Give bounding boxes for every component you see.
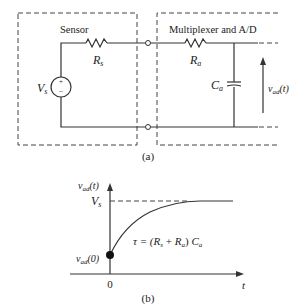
capacitor-plate-bottom bbox=[227, 85, 241, 86]
origin-label: 0 bbox=[107, 278, 113, 290]
sensor-label: Sensor bbox=[60, 24, 89, 35]
caption-b: (b) bbox=[142, 292, 155, 305]
ca-label: Ca bbox=[211, 78, 223, 93]
terminal-top bbox=[146, 41, 151, 46]
time-constant-label: τ = (Rs + Ra) Ca bbox=[133, 235, 203, 249]
wire-top-left bbox=[61, 43, 86, 77]
y-axis-label: vad(t) bbox=[78, 180, 100, 193]
initial-value-label: vad(0) bbox=[76, 253, 100, 266]
ra-label: Ra bbox=[189, 53, 201, 68]
circuit-figure: Sensor Multiplexer and A/D + − Vs Rs Ra … bbox=[0, 0, 308, 305]
x-axis-arrow-icon bbox=[236, 271, 244, 277]
rs-label: Rs bbox=[92, 53, 103, 68]
mux-label: Multiplexer and A/D bbox=[169, 24, 257, 35]
source-label: Vs bbox=[37, 81, 47, 96]
y-axis-arrow-icon bbox=[107, 183, 113, 191]
source-plus: + bbox=[59, 78, 63, 86]
resistor-ra-icon bbox=[185, 39, 206, 47]
caption-a: (a) bbox=[142, 150, 155, 163]
resistor-rs-icon bbox=[86, 39, 107, 47]
vad-label: vad(t) bbox=[268, 83, 290, 96]
source-minus: − bbox=[59, 87, 64, 96]
initial-value-dot bbox=[106, 251, 114, 259]
vs-label: Vs bbox=[91, 194, 101, 209]
wire-bottom-sensor bbox=[61, 97, 145, 127]
terminal-bottom bbox=[146, 125, 151, 130]
voltage-arrow-icon bbox=[260, 57, 266, 65]
x-axis-label: t bbox=[242, 279, 246, 291]
